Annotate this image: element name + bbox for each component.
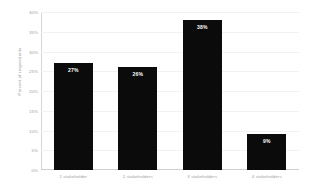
y-axis-title: Percent of respondents xyxy=(17,22,22,122)
bar[interactable]: 26% xyxy=(118,67,157,170)
y-axis-tick-label: 0% xyxy=(31,168,38,173)
y-axis-tick-label: 35% xyxy=(29,29,38,34)
bar-slot: 26% xyxy=(118,12,157,170)
y-axis-tick-label: 30% xyxy=(29,49,38,54)
bar-value-label: 38% xyxy=(183,24,222,30)
x-axis-tick-label: 2 stakeholders xyxy=(106,174,171,179)
bar[interactable]: 9% xyxy=(247,134,286,170)
x-axis-tick-label: 1 stakeholder xyxy=(41,174,106,179)
bar-slot: 27% xyxy=(54,12,93,170)
x-axis-tick-label: 3 stakeholders xyxy=(170,174,235,179)
y-axis-tick-label: 5% xyxy=(31,148,38,153)
bar-value-label: 9% xyxy=(247,138,286,144)
bar-slot: 38% xyxy=(183,12,222,170)
y-axis-tick-label: 40% xyxy=(29,10,38,15)
y-axis-tick-label: 20% xyxy=(29,89,38,94)
bar-slot: 9% xyxy=(247,12,286,170)
bar-value-label: 27% xyxy=(54,67,93,73)
y-axis-tick-label: 15% xyxy=(29,108,38,113)
bar-chart: Percent of respondents 0%5%10%15%20%25%3… xyxy=(0,0,310,189)
bar-series: 27%26%38%9% xyxy=(41,12,299,170)
bar[interactable]: 27% xyxy=(54,63,93,170)
x-axis-tick-label: 4 stakeholders xyxy=(235,174,300,179)
y-axis-tick-label: 25% xyxy=(29,69,38,74)
bar-value-label: 26% xyxy=(118,71,157,77)
y-axis-tick-label: 10% xyxy=(29,128,38,133)
bar[interactable]: 38% xyxy=(183,20,222,170)
